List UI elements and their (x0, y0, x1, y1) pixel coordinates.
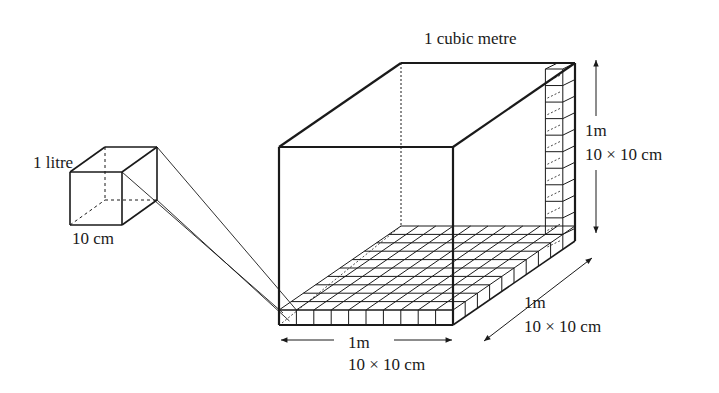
litre-cube-hidden-edge (70, 200, 105, 225)
arrowhead-icon (446, 337, 452, 342)
column-side-divider (563, 195, 575, 201)
box-top-right-edge (453, 63, 575, 147)
arrowhead-icon (281, 337, 287, 342)
column-hidden-line (547, 174, 560, 181)
arrowhead-icon (585, 258, 592, 264)
litre-cube-edge (70, 147, 105, 172)
litre-edge-label: 10 cm (72, 230, 114, 247)
column-side-divider (563, 129, 575, 135)
column-hidden-line (547, 158, 560, 165)
arrowhead-icon (484, 335, 491, 341)
column-side-divider (563, 146, 575, 152)
height-divisions-label: 10 × 10 cm (585, 146, 662, 163)
litre-cube-edge (122, 147, 157, 172)
column-hidden-line (547, 141, 560, 148)
column-hidden-line (547, 224, 560, 231)
arrowhead-icon (593, 227, 598, 233)
width-divisions-label: 10 × 10 cm (348, 356, 425, 373)
volume-diagram: 1 cubic metre 1 litre 10 cm 1m 10 × 10 c… (0, 0, 719, 393)
column-side-divider (563, 96, 575, 102)
height-length-label: 1m (585, 122, 607, 139)
litre-label: 1 litre (33, 154, 73, 171)
column-side-divider (563, 179, 575, 185)
cubic-metre-label: 1 cubic metre (424, 30, 517, 47)
depth-length-label: 1m (524, 294, 546, 311)
column-side-divider (563, 212, 575, 218)
column-side-divider (563, 162, 575, 168)
column-side-divider (563, 228, 575, 234)
column-hidden-line (547, 108, 560, 115)
column-hidden-line (547, 191, 560, 198)
width-length-label: 1m (348, 334, 370, 351)
box-top-left-edge (279, 63, 401, 147)
column-hidden-line (547, 92, 560, 99)
column-hidden-line (547, 125, 560, 132)
column-hidden-line (547, 207, 560, 214)
column-side-divider (563, 80, 575, 86)
column-side-divider (563, 113, 575, 119)
arrowhead-icon (593, 60, 598, 66)
zoom-connector-line (122, 172, 283, 313)
depth-divisions-label: 10 × 10 cm (524, 318, 601, 335)
zoom-connector-line (157, 147, 296, 310)
litre-cube-edge (122, 200, 157, 225)
